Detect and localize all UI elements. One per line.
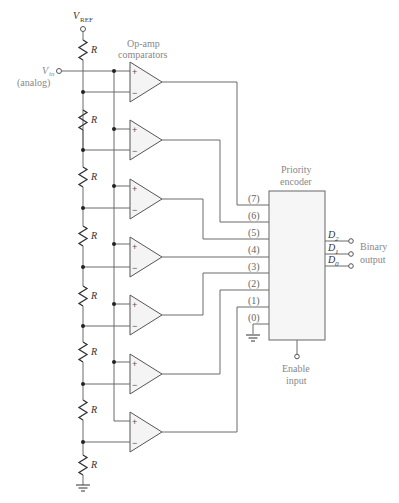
svg-text:−: − (132, 380, 137, 390)
comparator-output-wires (162, 82, 269, 432)
svg-text:+: + (132, 184, 137, 194)
comparators-label: Op-amp comparators (118, 38, 168, 60)
svg-text:+: + (132, 125, 137, 135)
svg-text:−: − (132, 438, 137, 448)
resistor-icon (79, 167, 87, 187)
comparator-5: + − (81, 179, 162, 219)
svg-text:(7): (7) (248, 193, 260, 205)
vin-terminal (57, 69, 62, 74)
resistor-icon (79, 455, 87, 475)
output-terminal-d2 (349, 239, 354, 244)
enable-terminal (295, 354, 300, 359)
svg-text:Priority: Priority (281, 164, 312, 175)
resistor-icon (79, 342, 87, 362)
resistor-icon (79, 40, 87, 60)
svg-text:input: input (286, 375, 307, 386)
svg-text:+: + (132, 417, 137, 427)
svg-text:R: R (90, 230, 97, 241)
svg-text:+: + (132, 67, 137, 77)
svg-text:R: R (90, 290, 97, 301)
svg-text:+: + (132, 242, 137, 252)
resistor-labels: R R R R R R R R (90, 44, 97, 470)
svg-text:Enable: Enable (282, 363, 310, 374)
resistor-icon (79, 286, 87, 306)
svg-text:+: + (132, 300, 137, 310)
resistor-ladder (76, 31, 90, 491)
svg-text:R: R (90, 114, 97, 125)
binary-outputs: D 2 D 1 D 0 Binary output (325, 229, 387, 268)
svg-text:output: output (360, 254, 386, 265)
svg-text:(5): (5) (248, 227, 260, 239)
svg-text:0: 0 (335, 260, 339, 268)
output-terminal-d0 (349, 264, 354, 269)
ground-icon (76, 485, 90, 491)
comparator-7: + − (81, 62, 162, 102)
svg-text:(6): (6) (248, 210, 260, 222)
comparator-3: + − (81, 295, 162, 335)
resistor-icon (79, 400, 87, 420)
vin-label: V in (analog) (17, 65, 55, 89)
resistor-icon (79, 226, 87, 246)
svg-text:−: − (132, 263, 137, 273)
enable-input: Enable input (282, 340, 310, 386)
comparator-2: + − (81, 354, 162, 394)
svg-text:Op-amp: Op-amp (127, 38, 160, 49)
svg-text:2: 2 (335, 235, 339, 243)
ground-icon (246, 335, 260, 341)
comparator-1: + − (81, 412, 162, 452)
svg-text:(analog): (analog) (17, 77, 50, 89)
vref-terminal (81, 27, 86, 32)
svg-text:(3): (3) (248, 261, 260, 273)
svg-text:−: − (132, 146, 137, 156)
svg-text:comparators: comparators (118, 49, 168, 60)
svg-text:−: − (132, 205, 137, 215)
svg-text:R: R (90, 404, 97, 415)
svg-text:R: R (90, 171, 97, 182)
svg-text:(1): (1) (248, 295, 260, 307)
svg-text:REF: REF (80, 16, 93, 24)
svg-text:R: R (90, 44, 97, 55)
svg-text:−: − (132, 321, 137, 331)
svg-text:(0): (0) (248, 312, 260, 324)
output-terminal-d1 (349, 252, 354, 257)
svg-text:R: R (90, 459, 97, 470)
svg-text:Binary: Binary (360, 241, 387, 252)
svg-text:+: + (132, 359, 137, 369)
svg-text:R: R (90, 346, 97, 357)
comparator-4: + − (81, 237, 162, 277)
svg-text:encoder: encoder (280, 176, 312, 187)
svg-text:(4): (4) (248, 244, 260, 256)
svg-text:1: 1 (335, 248, 339, 256)
svg-text:−: − (132, 88, 137, 98)
priority-encoder: Priority encoder (7) (6) (5) (4) (3) (2)… (248, 164, 325, 340)
svg-text:(2): (2) (248, 278, 260, 290)
vref-label: V REF (73, 10, 93, 24)
comparator-6: + − (81, 120, 162, 160)
flash-adc-diagram: V REF (0, 0, 399, 503)
